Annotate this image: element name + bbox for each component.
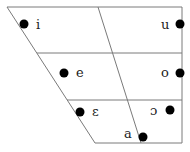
vowel-label: u — [161, 17, 169, 32]
vowel-label: o — [161, 65, 169, 80]
vowel-label: ɔ — [150, 103, 157, 118]
vowel-dot — [76, 108, 85, 117]
vowel-dot — [176, 69, 185, 78]
vowel-i: i — [20, 17, 41, 32]
vowel-open-o: ɔ — [150, 103, 175, 118]
vowel-chart: i u e o ɛ ɔ a — [0, 0, 190, 152]
vowel-dot — [139, 133, 148, 142]
vowel-label: e — [76, 65, 84, 80]
central-diagonal — [98, 7, 141, 143]
vowel-label: i — [36, 17, 40, 32]
chart-lines — [7, 7, 182, 143]
vowel-e: e — [60, 65, 85, 80]
vowel-label: a — [124, 126, 132, 141]
vowel-label: ɛ — [92, 104, 99, 119]
vowel-dot — [60, 69, 69, 78]
vowel-dot — [166, 106, 175, 115]
vowel-u: u — [161, 17, 185, 32]
vowel-dot — [20, 20, 29, 29]
vowel-a: a — [124, 126, 148, 142]
vowel-epsilon: ɛ — [76, 104, 100, 119]
vowel-dot — [176, 20, 185, 29]
vowel-o: o — [161, 65, 185, 80]
